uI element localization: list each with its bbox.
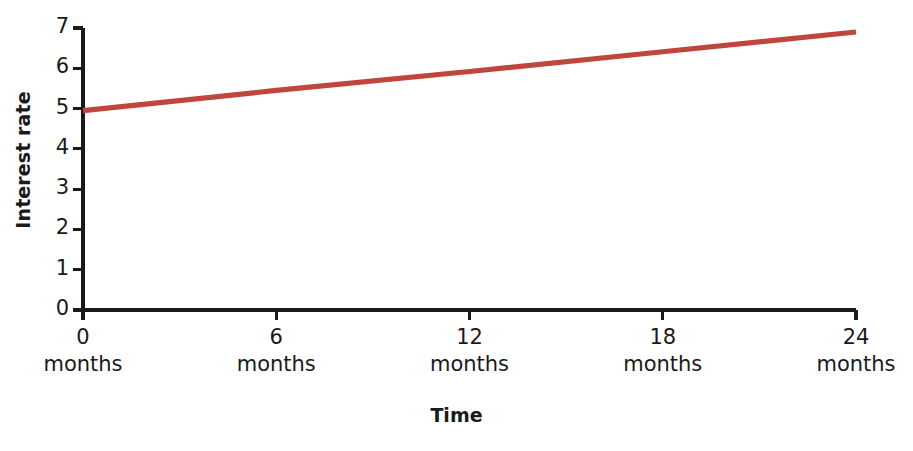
x-axis-tick-label: 18months bbox=[588, 324, 738, 378]
x-axis-tick-label: 24months bbox=[781, 324, 913, 378]
x-axis-tick-number: 0 bbox=[8, 324, 158, 351]
y-axis-tick-label: 4 bbox=[35, 137, 69, 158]
x-axis-title-text: Time bbox=[430, 404, 482, 426]
y-axis-tick-label: 2 bbox=[35, 217, 69, 238]
x-axis-tick-unit: months bbox=[781, 351, 913, 378]
y-axis-tick-label: 1 bbox=[35, 258, 69, 279]
y-axis-tick-label: 0 bbox=[35, 298, 69, 319]
chart-plot-area bbox=[0, 0, 913, 451]
x-axis-tick-label: 6months bbox=[201, 324, 351, 378]
y-axis-tick-label: 5 bbox=[35, 97, 69, 118]
x-axis-tick-number: 18 bbox=[588, 324, 738, 351]
x-axis-tick-number: 6 bbox=[201, 324, 351, 351]
y-axis-tick-label: 3 bbox=[35, 177, 69, 198]
y-axis-tick-label: 7 bbox=[35, 16, 69, 37]
x-axis-tick-number: 12 bbox=[395, 324, 545, 351]
y-axis-tick-label: 6 bbox=[35, 56, 69, 77]
x-axis-tick-label: 12months bbox=[395, 324, 545, 378]
x-axis-title: Time bbox=[0, 404, 913, 426]
x-axis-tick-unit: months bbox=[588, 351, 738, 378]
line-chart: Interest rate Time 76543210 0months6mont… bbox=[0, 0, 913, 451]
x-axis-tick-unit: months bbox=[201, 351, 351, 378]
data-series-layer bbox=[83, 32, 856, 111]
x-axis-tick-label: 0months bbox=[8, 324, 158, 378]
x-axis-tick-number: 24 bbox=[781, 324, 913, 351]
x-axis-tick-unit: months bbox=[395, 351, 545, 378]
x-axis-tick-unit: months bbox=[8, 351, 158, 378]
